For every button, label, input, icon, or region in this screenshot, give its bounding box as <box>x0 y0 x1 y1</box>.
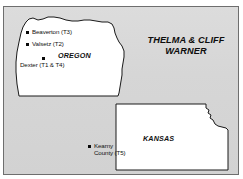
label-dexter: Dexter (T1 & T4) <box>20 62 64 69</box>
figure-title-line2: WARNER <box>136 46 236 57</box>
marker-beaverton <box>26 31 29 34</box>
label-kearny-county: Kearny County (T5) <box>94 143 140 157</box>
label-oregon: OREGON <box>58 52 91 60</box>
label-valsetz: Valsetz (T2) <box>32 41 64 48</box>
marker-kearny-county <box>88 145 91 148</box>
label-kearny-county-line2: County (T5) <box>94 150 140 157</box>
figure-title: THELMA & CLIFF WARNER <box>136 35 236 56</box>
marker-dexter <box>42 57 45 60</box>
label-beaverton: Beaverton (T3) <box>32 29 72 36</box>
map-figure: Beaverton (T3) Valsetz (T2) Dexter (T1 &… <box>0 0 243 179</box>
label-kansas: KANSAS <box>143 135 174 143</box>
figure-title-line1: THELMA & CLIFF <box>136 35 236 46</box>
marker-valsetz <box>26 43 29 46</box>
